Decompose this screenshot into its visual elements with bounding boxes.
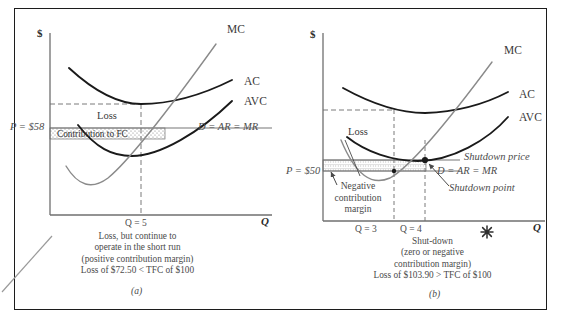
q3-price-marker xyxy=(392,169,396,173)
avc-label-a: AVC xyxy=(244,96,267,108)
demand-label-a: D = AR = MR xyxy=(198,122,258,133)
x-axis-label-a: Q xyxy=(261,216,269,227)
figure-container: $ MC AC AVC P = $58 Loss Contribution to… xyxy=(0,0,561,323)
q-tick-label-q4: Q = 4 xyxy=(400,225,422,235)
shutdown-point-marker xyxy=(422,157,428,163)
shutdown-price-label: Shutdown price xyxy=(464,152,530,163)
contribution-band-label: Contribution to FC xyxy=(57,129,128,139)
demand-label-b: D = AR = MR xyxy=(437,166,497,177)
q-tick-label-q3: Q = 3 xyxy=(355,225,377,235)
shutdown-point-label: Shutdown point xyxy=(449,183,515,194)
panel-label-b: (b) xyxy=(429,290,440,300)
y-axis-label-a: $ xyxy=(37,28,43,39)
caption-b: Shut-down (zero or negative contribution… xyxy=(345,236,520,282)
price-label-b: P = $50 xyxy=(286,166,320,177)
caption-a: Loss, but continue to operate in the sho… xyxy=(35,231,240,277)
ac-curve-a xyxy=(69,68,232,104)
mc-label-b: MC xyxy=(504,45,522,57)
loss-label-a: Loss xyxy=(97,111,117,122)
y-axis-label-b: $ xyxy=(310,29,316,40)
x-axis-label-b: Q xyxy=(533,222,541,233)
ac-label-b: AC xyxy=(519,89,535,101)
q-tick-label-a: Q = 5 xyxy=(125,219,147,229)
ac-curve-b xyxy=(343,88,508,113)
negative-contribution-label: Negative contribution margin xyxy=(322,180,394,215)
avc-label-b: AVC xyxy=(519,112,542,124)
mc-label-a: MC xyxy=(227,24,245,36)
ac-label-a: AC xyxy=(244,76,260,88)
loss-label-b: Loss xyxy=(348,127,368,138)
panel-label-a: (a) xyxy=(131,287,142,297)
price-label-a: P = $58 xyxy=(10,122,44,133)
